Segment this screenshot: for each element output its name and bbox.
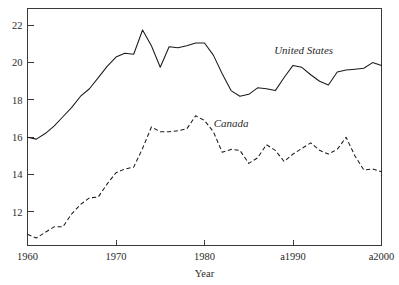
clipped-header-text: [26, 0, 366, 1]
series-label-united-states: United States: [274, 44, 333, 56]
series-line-canada: [28, 116, 382, 238]
series-label-canada: Canada: [214, 117, 249, 129]
chart-canvas: 121416182022 196019701980a1990a2000 Unit…: [0, 0, 399, 285]
x-tick-label-1960: 1960: [17, 251, 38, 262]
x-tick-label-1990: a1990: [280, 251, 306, 262]
y-axis-ticks: [28, 25, 34, 212]
y-tick-label-18: 18: [12, 95, 23, 106]
y-tick-label-12: 12: [12, 207, 23, 218]
x-axis-title: Year: [195, 268, 215, 279]
x-tick-label-1970: 1970: [106, 251, 127, 262]
y-tick-label-22: 22: [12, 20, 23, 31]
y-tick-label-14: 14: [12, 169, 23, 180]
y-axis-tick-labels: 121416182022: [12, 20, 23, 218]
energy-use-line-chart: 121416182022 196019701980a1990a2000 Unit…: [0, 0, 399, 285]
y-tick-label-20: 20: [12, 57, 23, 68]
x-tick-label-1980: 1980: [194, 251, 215, 262]
x-tick-label-2000: a2000: [369, 251, 395, 262]
y-tick-label-16: 16: [12, 132, 23, 143]
series-annotation-labels: United StatesCanada: [214, 44, 333, 129]
data-series-group: [28, 30, 382, 238]
x-axis-tick-labels: 196019701980a1990a2000: [17, 251, 394, 262]
x-axis-ticks: [28, 240, 382, 246]
